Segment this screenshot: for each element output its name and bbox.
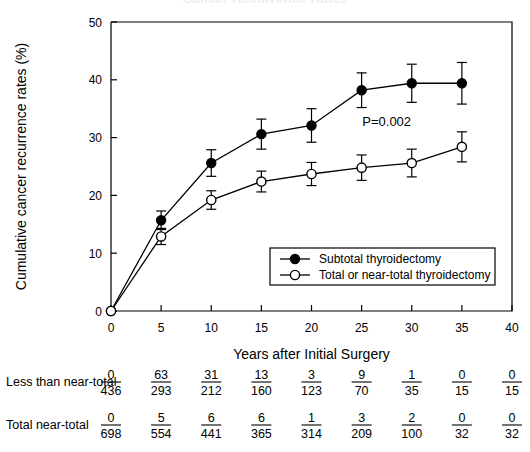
risk-table-numerator: 63	[154, 368, 168, 382]
risk-table-numerator: 1	[408, 368, 415, 382]
risk-table-numerator: 3	[358, 411, 365, 425]
x-tick-label: 15	[255, 321, 269, 335]
x-tick-label: 0	[108, 321, 115, 335]
risk-table-denominator: 209	[351, 427, 372, 441]
risk-table-denominator: 35	[405, 384, 419, 398]
risk-table-numerator: 0	[108, 411, 115, 425]
legend-marker-open-circle	[290, 270, 299, 279]
risk-table-denominator: 32	[505, 427, 519, 441]
risk-table-denominator: 70	[355, 384, 369, 398]
risk-table-denominator: 554	[151, 427, 172, 441]
risk-table-denominator: 212	[201, 384, 222, 398]
risk-table-numerator: 31	[204, 368, 218, 382]
risk-table-denominator: 15	[455, 384, 469, 398]
data-point-open-circle	[157, 232, 166, 241]
risk-table-numerator: 6	[208, 411, 215, 425]
data-point-open-circle	[307, 169, 316, 178]
legend-label-0: Subtotal thyroidectomy	[319, 252, 441, 266]
data-point-filled-circle	[407, 79, 416, 88]
risk-table-numerator: 0	[108, 368, 115, 382]
x-tick-label: 20	[305, 321, 319, 335]
risk-table-numerator: 0	[458, 411, 465, 425]
risk-table-denominator: 100	[401, 427, 422, 441]
data-point-open-circle	[357, 163, 366, 172]
figure-container: Cancer Recurrence Rates 0102030405005101…	[0, 0, 530, 452]
risk-table-denominator: 365	[251, 427, 272, 441]
risk-table-row-label: Total near-total	[6, 418, 89, 432]
risk-table-numerator: 5	[158, 411, 165, 425]
y-tick-label: 0	[95, 305, 102, 319]
data-point-open-circle	[407, 158, 416, 167]
risk-table-denominator: 32	[455, 427, 469, 441]
chart-svg: 010203040500510152025303540Years after I…	[0, 0, 530, 452]
x-axis-title: Years after Initial Surgery	[233, 346, 390, 362]
y-tick-label: 20	[89, 189, 103, 203]
x-tick-label: 10	[205, 321, 219, 335]
risk-table-denominator: 314	[301, 427, 322, 441]
risk-table-denominator: 441	[201, 427, 222, 441]
data-point-filled-circle	[457, 79, 466, 88]
data-point-filled-circle	[157, 216, 166, 225]
y-axis-title: Cumulative cancer recurrence rates (%)	[13, 43, 29, 290]
data-point-open-circle	[257, 177, 266, 186]
risk-table-numerator: 13	[254, 368, 268, 382]
data-point-filled-circle	[207, 158, 216, 167]
risk-table-numerator: 0	[458, 368, 465, 382]
data-point-filled-circle	[307, 121, 316, 130]
risk-table-numerator: 9	[358, 368, 365, 382]
risk-table-numerator: 3	[308, 368, 315, 382]
risk-table-denominator: 698	[101, 427, 122, 441]
y-tick-label: 10	[89, 247, 103, 261]
y-tick-label: 40	[89, 73, 103, 87]
data-point-open-circle	[207, 195, 216, 204]
data-point-open-circle	[457, 142, 466, 151]
x-tick-label: 30	[405, 321, 419, 335]
y-tick-label: 50	[89, 16, 103, 30]
data-point-filled-circle	[257, 130, 266, 139]
data-point-filled-circle	[357, 86, 366, 95]
risk-table-denominator: 293	[151, 384, 172, 398]
x-tick-label: 5	[158, 321, 165, 335]
risk-table-numerator: 6	[258, 411, 265, 425]
data-point-open-circle	[106, 306, 115, 315]
y-tick-label: 30	[89, 131, 103, 145]
legend-label-1: Total or near-total thyroidectomy	[319, 268, 490, 282]
risk-table-denominator: 15	[505, 384, 519, 398]
risk-table-numerator: 1	[308, 411, 315, 425]
risk-table-numerator: 2	[408, 411, 415, 425]
risk-table-numerator: 0	[509, 411, 516, 425]
risk-table-denominator: 436	[101, 384, 122, 398]
legend-marker-filled-circle	[290, 254, 299, 263]
risk-table-denominator: 160	[251, 384, 272, 398]
x-tick-label: 40	[505, 321, 519, 335]
annotation-pvalue: P=0.002	[362, 114, 411, 129]
x-tick-label: 35	[455, 321, 469, 335]
risk-table-numerator: 0	[509, 368, 516, 382]
risk-table-denominator: 123	[301, 384, 322, 398]
x-tick-label: 25	[355, 321, 369, 335]
